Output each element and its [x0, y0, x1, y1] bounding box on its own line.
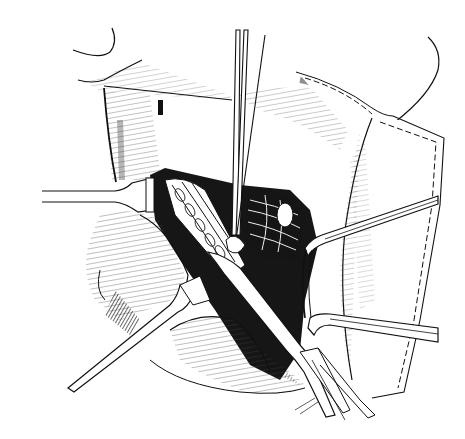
hatch-bottom	[295, 398, 318, 414]
contour-upper-right	[395, 37, 439, 122]
skin-flap-upper	[78, 60, 232, 100]
tissue-wall-left	[96, 88, 163, 182]
contour-upper-left	[73, 28, 115, 56]
surgical-illustration	[0, 0, 465, 439]
retractor-left	[42, 178, 154, 212]
